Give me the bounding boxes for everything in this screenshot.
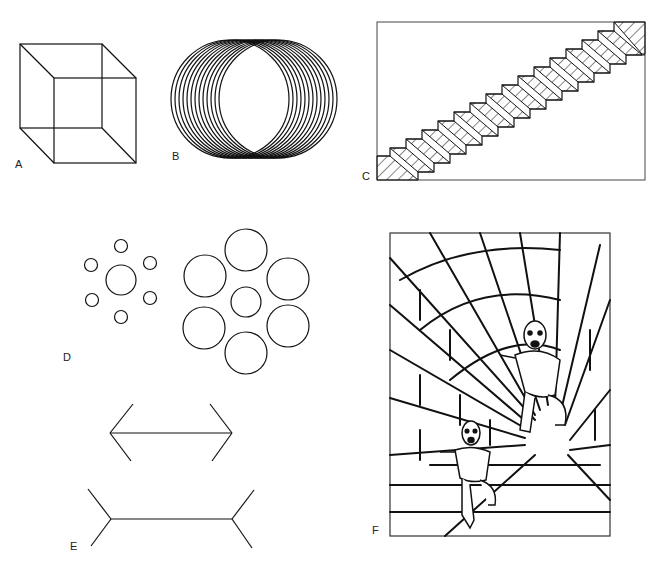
ebbinghaus-small-ring xyxy=(85,240,157,324)
necker-cube xyxy=(20,44,136,163)
overlapping-circles xyxy=(171,40,337,158)
panel-label-b: B xyxy=(172,150,179,162)
illusions-figure xyxy=(0,0,655,562)
schroeder-staircase xyxy=(377,22,645,180)
panel-label-c: C xyxy=(362,170,370,182)
panel-label-f: F xyxy=(372,524,379,536)
muller-lyer-arrows xyxy=(88,404,254,548)
ebbinghaus-large-ring xyxy=(183,229,309,374)
panel-label-d: D xyxy=(63,351,71,363)
panel-label-e: E xyxy=(70,540,77,552)
corridor-illusion xyxy=(390,233,610,536)
panel-label-a: A xyxy=(15,158,22,170)
